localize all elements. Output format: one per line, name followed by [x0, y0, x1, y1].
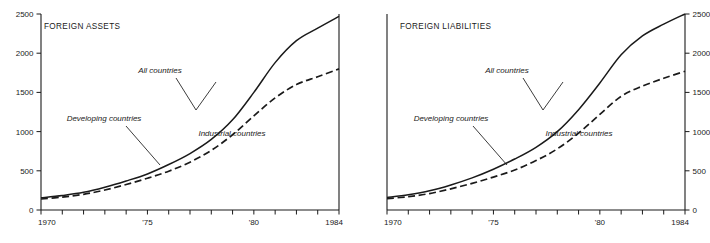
series-line-developing-countries	[41, 69, 339, 199]
figure-root: 05001000150020002500 1970'75'801984 All …	[0, 0, 710, 243]
series-group	[41, 16, 339, 199]
annotation-label: Industrial countries	[198, 129, 265, 138]
x-tick-label: '80	[595, 218, 606, 227]
annotation-leader-line	[176, 78, 196, 110]
y-tick-label-group: 05001000150020002500	[16, 10, 34, 215]
annotation-label: Industrial countries	[545, 129, 612, 138]
chart-panel-foreign-assets: 05001000150020002500 1970'75'801984 All …	[0, 0, 355, 243]
y-tick-label: 0	[693, 206, 698, 215]
x-tick-label: '75	[488, 218, 499, 227]
annotation-label: Developing countries	[414, 114, 489, 123]
series-line-developing-countries	[387, 71, 685, 198]
axes-group	[387, 14, 685, 210]
y-tick-label: 500	[20, 167, 34, 176]
y-tick-label: 0	[29, 206, 34, 215]
series-line-all-countries	[41, 16, 339, 198]
annotation-group: All countriesDeveloping countriesIndustr…	[414, 66, 613, 165]
x-tick-label-group: 1970'75'801984	[384, 218, 690, 227]
y-tick-label: 500	[693, 167, 707, 176]
x-tick-label: 1984	[671, 218, 689, 227]
y-tick-label: 1500	[16, 88, 34, 97]
y-tick-label: 1000	[16, 128, 34, 137]
annotation-label: All countries	[484, 66, 529, 75]
x-tick-label: 1984	[325, 218, 343, 227]
annotation-leader-line	[126, 126, 160, 165]
x-tick-label: 1970	[38, 218, 56, 227]
foreign-liabilities-svg: 05001000150020002500 1970'75'801984 All …	[355, 0, 710, 243]
y-tick-label-group: 05001000150020002500	[693, 10, 710, 215]
chart-panel-foreign-liabilities: 05001000150020002500 1970'75'801984 All …	[355, 0, 710, 243]
x-tick-label: '80	[249, 218, 260, 227]
y-tick-label: 2000	[16, 49, 34, 58]
annotation-label: All countries	[137, 66, 182, 75]
annotation-leader-line	[473, 126, 507, 165]
panel-title: FOREIGN ASSETS	[44, 22, 121, 31]
y-tick-label: 1000	[693, 128, 710, 137]
x-tick-label: 1970	[384, 218, 402, 227]
y-tick-label: 1500	[693, 88, 710, 97]
annotation-leader-line	[196, 82, 216, 110]
x-tick-label-group: 1970'75'801984	[38, 218, 344, 227]
annotation-label: Developing countries	[67, 114, 142, 123]
y-tick-label: 2000	[693, 49, 710, 58]
y-tick-label: 2500	[16, 10, 34, 19]
panel-title: FOREIGN LIABILITIES	[400, 22, 491, 31]
foreign-assets-svg: 05001000150020002500 1970'75'801984 All …	[0, 0, 355, 243]
annotation-leader-line	[523, 78, 543, 110]
series-group	[387, 14, 685, 199]
y-tick-label: 2500	[693, 10, 710, 19]
annotation-leader-line	[543, 82, 563, 110]
x-tick-label: '75	[142, 218, 153, 227]
series-line-all-countries	[387, 14, 685, 197]
